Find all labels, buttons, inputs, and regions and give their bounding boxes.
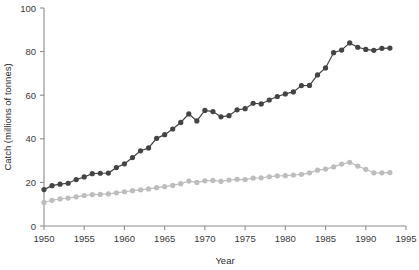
data-point-marker — [234, 107, 239, 112]
y-tick-label: 0 — [31, 221, 36, 232]
data-point-marker — [299, 83, 304, 88]
series-secondary-catch — [41, 160, 392, 205]
data-point-marker — [251, 101, 256, 106]
data-point-marker — [98, 171, 103, 176]
data-point-marker — [49, 183, 54, 188]
data-point-marker — [186, 111, 191, 116]
data-point-marker — [226, 113, 231, 118]
data-point-marker — [283, 173, 288, 178]
data-point-marker — [114, 165, 119, 170]
data-point-marker — [315, 168, 320, 173]
data-point-marker — [355, 45, 360, 50]
data-point-marker — [363, 167, 368, 172]
data-point-marker — [178, 120, 183, 125]
data-point-marker — [323, 167, 328, 172]
y-tick-group: 020406080100 — [20, 3, 44, 232]
x-tick-label: 1965 — [154, 233, 175, 244]
x-tick-label: 1960 — [114, 233, 135, 244]
x-axis: 1950195519601965197019751980198519901995 — [33, 226, 416, 244]
series-line — [44, 43, 390, 190]
data-point-marker — [82, 174, 87, 179]
data-point-marker — [371, 170, 376, 175]
data-point-marker — [66, 196, 71, 201]
data-point-marker — [138, 187, 143, 192]
data-point-marker — [387, 46, 392, 51]
x-axis-title: Year — [215, 255, 234, 266]
data-point-marker — [323, 65, 328, 70]
series-marine-catch — [41, 40, 392, 192]
data-point-marker — [114, 190, 119, 195]
y-tick-label: 40 — [25, 133, 36, 144]
x-tick-label: 1980 — [275, 233, 296, 244]
data-point-marker — [98, 192, 103, 197]
data-point-marker — [130, 188, 135, 193]
x-tick-label: 1985 — [315, 233, 336, 244]
y-axis-title: Catch (millions of tonnes) — [2, 63, 13, 170]
data-point-marker — [315, 72, 320, 77]
data-point-marker — [162, 184, 167, 189]
x-tick-group: 1950195519601965197019751980198519901995 — [33, 226, 416, 244]
data-point-marker — [251, 175, 256, 180]
x-tick-label: 1995 — [395, 233, 416, 244]
data-point-marker — [146, 186, 151, 191]
data-point-marker — [49, 198, 54, 203]
series-group — [41, 40, 392, 205]
data-point-marker — [170, 126, 175, 131]
data-point-marker — [210, 109, 215, 114]
data-point-marker — [275, 173, 280, 178]
x-tick-label: 1975 — [235, 233, 256, 244]
data-point-marker — [267, 97, 272, 102]
y-axis: 020406080100 — [20, 3, 44, 232]
data-point-marker — [41, 187, 46, 192]
data-point-marker — [106, 191, 111, 196]
data-point-marker — [267, 174, 272, 179]
data-point-marker — [283, 91, 288, 96]
series-line — [44, 162, 390, 202]
data-point-marker — [331, 50, 336, 55]
data-point-marker — [347, 160, 352, 165]
x-tick-label: 1950 — [33, 233, 54, 244]
y-tick-label: 20 — [25, 177, 36, 188]
data-point-marker — [371, 48, 376, 53]
x-tick-label: 1990 — [355, 233, 376, 244]
data-point-marker — [387, 170, 392, 175]
catch-line-chart: 020406080100 195019551960196519701975198… — [0, 0, 419, 270]
data-point-marker — [339, 47, 344, 52]
data-point-marker — [379, 170, 384, 175]
data-point-marker — [90, 192, 95, 197]
data-point-marker — [178, 181, 183, 186]
data-point-marker — [218, 179, 223, 184]
x-tick-label: 1970 — [194, 233, 215, 244]
data-point-marker — [307, 170, 312, 175]
data-point-marker — [243, 177, 248, 182]
data-point-marker — [202, 108, 207, 113]
data-point-marker — [259, 101, 264, 106]
data-point-marker — [307, 83, 312, 88]
data-point-marker — [259, 175, 264, 180]
y-tick-label: 80 — [25, 46, 36, 57]
data-point-marker — [226, 177, 231, 182]
data-point-marker — [41, 200, 46, 205]
data-point-marker — [57, 196, 62, 201]
data-point-marker — [194, 180, 199, 185]
data-point-marker — [154, 185, 159, 190]
data-point-marker — [122, 161, 127, 166]
chart-canvas: 020406080100 195019551960196519701975198… — [0, 0, 419, 270]
data-point-marker — [243, 106, 248, 111]
data-point-marker — [210, 178, 215, 183]
data-point-marker — [82, 193, 87, 198]
data-point-marker — [331, 164, 336, 169]
data-point-marker — [339, 161, 344, 166]
data-point-marker — [170, 183, 175, 188]
data-point-marker — [379, 46, 384, 51]
data-point-marker — [130, 155, 135, 160]
data-point-marker — [66, 181, 71, 186]
data-point-marker — [355, 163, 360, 168]
data-point-marker — [106, 170, 111, 175]
data-point-marker — [347, 40, 352, 45]
data-point-marker — [74, 194, 79, 199]
data-point-marker — [74, 177, 79, 182]
data-point-marker — [194, 118, 199, 123]
data-point-marker — [218, 114, 223, 119]
data-point-marker — [275, 94, 280, 99]
